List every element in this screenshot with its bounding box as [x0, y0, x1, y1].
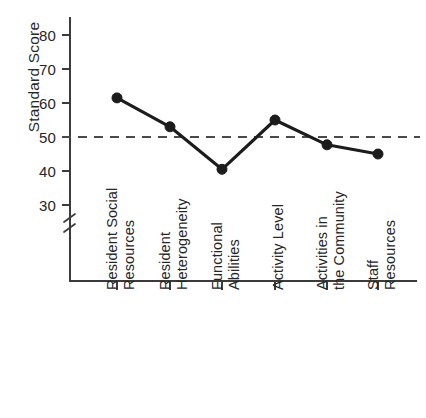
y-tick-label-40: 40: [22, 164, 56, 179]
chart-figure: 80 70 60 50 40 30 Standard Score Residen…: [0, 0, 426, 418]
x-category-line-1: Activity Level: [270, 204, 286, 290]
x-category-line-1: Staff: [365, 260, 381, 290]
data-point: [112, 93, 122, 103]
x-category-line-2: Resources: [382, 170, 399, 290]
x-category-line-2: Heterogeneity: [174, 170, 191, 290]
data-series-line: [117, 98, 378, 169]
data-point: [322, 140, 332, 150]
x-category-line-1: Activities in: [314, 216, 330, 290]
x-category-line-2: the Community: [331, 170, 348, 290]
data-point: [270, 115, 280, 125]
data-point: [165, 122, 175, 132]
x-category-label-staff-resources: Staff Resources: [365, 290, 426, 308]
y-axis-ticks: [62, 35, 70, 205]
data-point: [373, 149, 383, 159]
x-category-line-1: Resident Social: [104, 188, 120, 290]
x-category-line-1: Functional: [209, 222, 225, 290]
y-tick-label-30: 30: [22, 198, 56, 213]
x-category-line-2: Resources: [121, 170, 138, 290]
x-category-line-1: Resident: [157, 232, 173, 290]
data-point-markers: [112, 93, 383, 174]
y-axis-title: Standard Score: [23, 0, 45, 157]
x-category-line-2: Abilities: [226, 170, 243, 290]
y-axis-title-text: Standard Score: [23, 0, 45, 157]
